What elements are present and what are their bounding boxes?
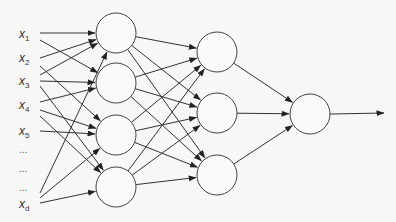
input-label-3: x3	[19, 75, 29, 90]
hidden-connection-arrow	[131, 65, 200, 122]
hidden-connection-arrow	[132, 45, 201, 100]
neurons	[96, 13, 330, 207]
hidden-connection-arrow	[136, 37, 197, 48]
hidden-layer2-neuron	[197, 32, 237, 72]
input-arrow	[40, 131, 95, 134]
output-connection-arrow	[237, 113, 289, 114]
network-graph	[0, 0, 396, 222]
input-arrow	[40, 191, 95, 203]
input-label-2: x2	[19, 52, 29, 67]
hidden-layer2-neuron	[197, 155, 237, 195]
input-arrow	[40, 43, 98, 75]
hidden-layer1-neuron	[96, 63, 136, 103]
ellipsis: ...	[19, 182, 27, 193]
hidden-connection-arrow	[135, 142, 198, 167]
hidden-connection-arrow	[131, 96, 202, 160]
input-label-4: x4	[19, 99, 29, 114]
input-arrow	[40, 40, 98, 73]
input-arrow	[40, 81, 95, 82]
input-arrow	[40, 116, 101, 173]
input-label-5: x5	[19, 125, 29, 140]
hidden-layer1-neuron	[96, 13, 136, 53]
input-arrow	[40, 52, 107, 193]
input-arrow	[40, 110, 96, 128]
input-arrow	[40, 88, 96, 102]
hidden-layer1-neuron	[96, 115, 136, 155]
hidden-connection-arrow	[136, 177, 196, 184]
hidden-layer2-neuron	[197, 93, 237, 133]
output-connection-arrow	[234, 126, 293, 165]
hidden-connection-arrow	[128, 69, 204, 171]
ellipsis: ...	[19, 144, 27, 155]
hidden-connection-arrow	[135, 58, 197, 77]
hidden-layer1-neuron	[96, 167, 136, 207]
output-neuron	[290, 94, 330, 134]
ellipsis: ...	[19, 163, 27, 174]
input-label-d: xd	[19, 198, 29, 213]
input-label-1: x1	[19, 28, 29, 43]
output-connection-arrow	[234, 63, 293, 102]
output-arrow	[330, 113, 384, 114]
